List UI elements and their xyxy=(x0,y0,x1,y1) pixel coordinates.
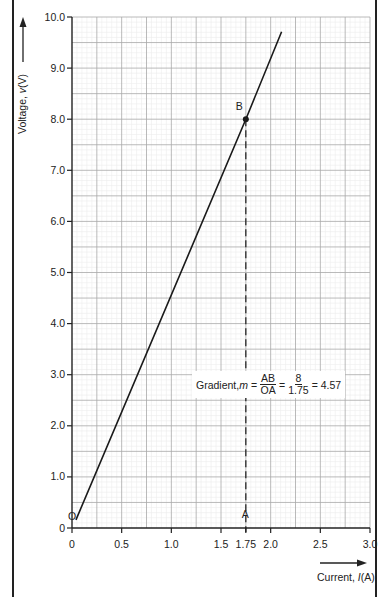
fraction-ab-oa: AB OA xyxy=(260,373,276,396)
y-axis-title: Voltage, v(V) xyxy=(16,17,28,134)
y-tick-label: 2.0 xyxy=(50,419,65,431)
fraction-denominator: 1.75 xyxy=(288,385,308,396)
gradient-annotation: Gradient, m = AB OA = 8 1.75 = 4.57 xyxy=(192,371,345,398)
point-labels: BAO xyxy=(68,100,249,522)
y-tick-label: 4.0 xyxy=(50,317,65,329)
grid-major xyxy=(72,17,370,528)
x-axis-ticks: 00.51.01.51.752.02.53.0 xyxy=(69,528,377,550)
x-tick-label: 1.75 xyxy=(236,538,257,550)
x-axis-title: Current, I(A) xyxy=(317,560,375,584)
y-tick-label: 8.0 xyxy=(50,113,65,125)
point-b-marker xyxy=(243,116,249,122)
fraction-denominator: OA xyxy=(261,385,276,396)
annotation-result: = 4.57 xyxy=(312,379,342,391)
up-arrow-icon xyxy=(20,17,27,27)
chart-canvas: 01.02.03.04.05.06.07.08.09.010.0 00.51.0… xyxy=(0,0,381,597)
x-tick-label: 0.5 xyxy=(114,538,129,550)
point-a-label: A xyxy=(242,508,249,520)
y-tick-label: 5.0 xyxy=(50,266,65,278)
y-tick-label: 3.0 xyxy=(50,368,65,380)
y-tick-label: 6.0 xyxy=(50,215,65,227)
x-tick-label: 2.0 xyxy=(263,538,278,550)
y-tick-label: 10.0 xyxy=(45,11,66,23)
y-tick-label: 7.0 xyxy=(50,164,65,176)
y-tick-label: 9.0 xyxy=(50,62,65,74)
y-axis-label: Voltage, v(V) xyxy=(16,74,28,134)
annotation-eq2: = xyxy=(279,379,285,391)
x-tick-label: 2.5 xyxy=(313,538,328,550)
x-axis-label: Current, I(A) xyxy=(317,571,375,583)
x-tick-label: 0 xyxy=(69,538,75,550)
annotation-eq1: = xyxy=(251,379,257,391)
y-axis-ticks: 01.02.03.04.05.06.07.08.09.010.0 xyxy=(45,11,72,534)
fraction-values: 8 1.75 xyxy=(288,373,308,396)
x-tick-label: 1.5 xyxy=(214,538,229,550)
annotation-prefix: Gradient, xyxy=(196,379,239,391)
x-tick-label: 1.0 xyxy=(164,538,179,550)
y-tick-label: 1.0 xyxy=(50,470,65,482)
y-tick-label: 0 xyxy=(59,522,65,534)
point-b-label: B xyxy=(236,100,243,112)
point-o-label: O xyxy=(68,510,76,522)
right-arrow-icon xyxy=(357,560,367,567)
annotation-variable: m xyxy=(239,379,248,391)
x-tick-label: 3.0 xyxy=(363,538,378,550)
